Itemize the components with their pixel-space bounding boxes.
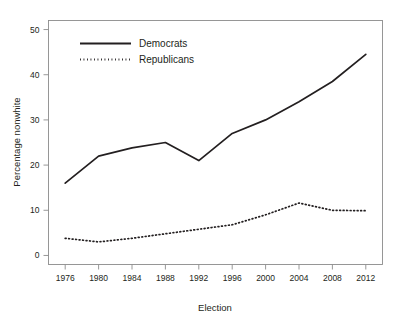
series-line-democrats bbox=[65, 54, 366, 183]
x-tick-label: 1996 bbox=[223, 273, 242, 283]
x-tick-label: 1988 bbox=[156, 273, 175, 283]
x-tick-label: 1980 bbox=[89, 273, 108, 283]
x-tick-label: 2000 bbox=[256, 273, 275, 283]
chart-figure: 01020304050 1976198019841988199219962000… bbox=[0, 0, 402, 325]
y-axis-title: Percentage nonwhite bbox=[11, 97, 22, 186]
chart-legend: Democrats Republicans bbox=[80, 38, 194, 65]
series-line-republicans bbox=[65, 203, 366, 242]
y-tick-label: 30 bbox=[30, 115, 40, 125]
x-tick-label: 2008 bbox=[323, 273, 342, 283]
y-tick-label: 10 bbox=[30, 205, 40, 215]
y-tick-label: 20 bbox=[30, 160, 40, 170]
plot-frame bbox=[49, 21, 383, 265]
x-axis-ticks: 1976198019841988199219962000200420082012 bbox=[56, 265, 376, 283]
x-tick-label: 1992 bbox=[189, 273, 208, 283]
legend-label-republicans: Republicans bbox=[139, 54, 194, 65]
legend-label-democrats: Democrats bbox=[139, 38, 187, 49]
y-tick-label: 50 bbox=[30, 25, 40, 35]
x-tick-label: 1984 bbox=[123, 273, 142, 283]
line-chart: 01020304050 1976198019841988199219962000… bbox=[0, 0, 402, 325]
y-tick-label: 40 bbox=[30, 70, 40, 80]
x-tick-label: 2004 bbox=[290, 273, 309, 283]
y-tick-label: 0 bbox=[35, 250, 40, 260]
x-tick-label: 2012 bbox=[356, 273, 375, 283]
x-axis-title: Election bbox=[198, 302, 232, 313]
series-group bbox=[65, 54, 366, 242]
x-tick-label: 1976 bbox=[56, 273, 75, 283]
y-axis-ticks: 01020304050 bbox=[30, 25, 48, 261]
